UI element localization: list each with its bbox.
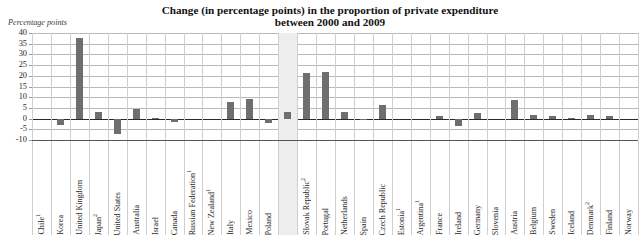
category-separator [184,33,185,140]
category-separator [108,33,109,140]
category-separator [373,33,374,140]
bar [341,112,348,119]
y-axis-tick-label: 20 [5,72,27,80]
category-separator [335,33,336,140]
bar [360,119,367,120]
x-axis-label: Canada [170,211,179,235]
category-separator-label [146,141,147,235]
bar [568,118,575,119]
y-axis-tick-label: 0 [5,115,27,123]
category-separator-label [165,141,166,235]
footnote-marker: 1 [35,214,41,217]
bar [246,99,253,118]
x-axis-label: Austria [510,211,519,235]
category-separator [32,33,33,140]
bar [606,116,613,119]
bar [57,119,64,125]
footnote-marker: 1 [395,208,401,211]
category-separator [430,33,431,140]
category-separator [354,33,355,140]
plot-area [32,33,638,140]
bar [474,113,481,119]
x-axis-label: Israel [151,217,160,235]
category-separator-label [562,141,563,235]
category-separator-label [259,141,260,235]
y-axis-tick-label: 15 [5,83,27,91]
y-axis-tick-label: 30 [5,50,27,58]
chart-root: Change (in percentage points) in the pro… [0,0,644,235]
category-separator-label [221,141,222,235]
category-separator-label [70,141,71,235]
category-separator-label [51,141,52,235]
bar [95,112,102,119]
x-axis-label: Iceland [567,211,576,235]
y-axis-tick-label: 25 [5,61,27,69]
x-axis-label: Norway [624,209,633,235]
chart-title: Change (in percentage points) in the pro… [130,4,530,29]
x-axis-label: Chile1 [37,214,46,235]
x-axis-label: Slovak Republic2 [302,178,311,235]
category-separator-label [619,141,620,235]
x-axis-label: Estonia1 [397,208,406,235]
category-separator [562,33,563,140]
bar [436,116,443,119]
category-separator [259,33,260,140]
oecd-average-highlight-band [279,33,297,140]
y-axis-tick-label: 10 [5,93,27,101]
x-axis-label: Mexico [245,210,254,235]
bar [549,116,556,119]
category-separator [297,33,298,140]
footnote-marker: 1 [206,189,212,192]
category-separator [411,33,412,140]
x-axis-label: Australia [132,205,141,235]
bar [303,73,310,119]
category-separator [240,33,241,140]
bar [530,115,537,118]
x-axis-label: United Kingdom [75,180,84,235]
category-separator-label [487,141,488,235]
category-separator-label [581,141,582,235]
category-separator [89,33,90,140]
x-axis-label: Portugal [321,208,330,235]
y-axis-caption: Percentage points [8,18,67,27]
category-separator-label [184,141,185,235]
category-separator-label [32,141,33,235]
category-separator [221,33,222,140]
category-separator [524,33,525,140]
bar [152,118,159,119]
y-axis-tick-label: -5 [5,125,27,133]
bar [455,119,462,126]
category-separator-label [505,141,506,235]
bar [76,38,83,118]
x-axis-label: Poland [264,213,273,235]
x-axis-label: New Zealand1 [207,189,216,235]
category-separator [51,33,52,140]
category-separator-label [108,141,109,235]
category-separator [600,33,601,140]
bar [171,119,178,122]
category-separator-label [89,141,90,235]
x-axis-label: France [435,213,444,235]
category-separator-label [392,141,393,235]
category-separator [316,33,317,140]
category-separator-label [638,141,639,235]
category-separator-label [411,141,412,235]
bar [511,100,518,118]
category-separator-label [202,141,203,235]
bar [587,115,594,119]
category-separator [165,33,166,140]
x-axis-label: Germany [473,205,482,235]
x-axis-label: Argentina1 [416,200,425,235]
oecd-average-highlight-band-labels [279,141,297,235]
x-axis-label: Slovenia [491,207,500,235]
x-axis-label: Sweden [548,209,557,235]
category-separator [543,33,544,140]
category-separator [468,33,469,140]
bar [284,112,291,119]
category-separator-label [543,141,544,235]
footnote-marker: 2 [300,178,306,181]
bar [322,72,329,119]
footnote-marker: 1 [187,170,193,173]
category-separator [278,33,279,140]
category-separator [487,33,488,140]
